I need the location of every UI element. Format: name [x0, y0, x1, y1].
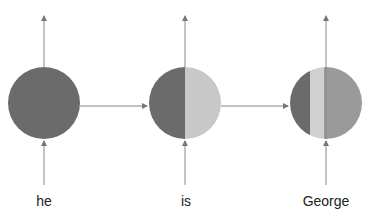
token-label-george: George	[303, 193, 350, 209]
token-label-is: is	[181, 193, 191, 209]
hidden-state-node-1	[8, 67, 80, 139]
hidden-state-node-2	[149, 67, 221, 139]
token-label-he: he	[36, 193, 52, 209]
rnn-diagram	[0, 0, 369, 219]
